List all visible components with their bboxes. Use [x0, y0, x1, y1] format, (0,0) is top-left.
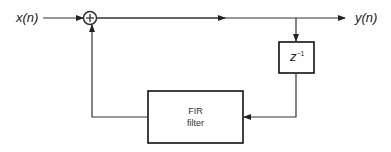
- fir-block: FIR filter: [148, 105, 243, 129]
- delay-to-fir-line: [244, 73, 296, 117]
- delay-exponent: −1: [297, 50, 305, 57]
- diagram-canvas: [0, 0, 391, 152]
- fir-label-line2: filter: [148, 117, 243, 129]
- fir-label-line1: FIR: [148, 105, 243, 117]
- delay-block: z−1: [290, 49, 304, 64]
- input-label: x(n): [16, 10, 38, 25]
- feedback-line: [92, 25, 148, 117]
- output-label: y(n): [355, 10, 377, 25]
